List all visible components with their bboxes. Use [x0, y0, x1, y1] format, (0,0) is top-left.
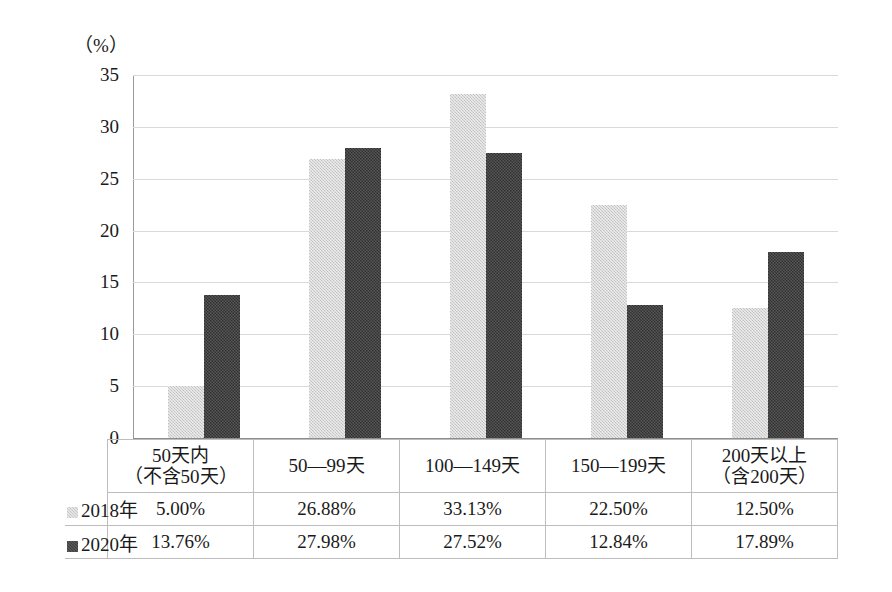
table-row: 2018年 5.00%26.88%33.13%22.50%12.50%	[65, 493, 838, 526]
bar-2020年-200天以上（含200天）	[768, 252, 804, 438]
y-tick-label: 35	[100, 64, 119, 86]
category-label-line: （不含50天）	[110, 466, 251, 487]
y-tick-label: 20	[100, 220, 119, 242]
y-tick-label: 25	[100, 168, 119, 190]
bar-2018年-100—149天	[450, 94, 486, 438]
y-tick-label: 15	[100, 271, 119, 293]
table-row: 2020年 13.76%27.98%27.52%12.84%17.89%	[65, 526, 838, 559]
y-tick-label: 30	[100, 116, 119, 138]
category-header-cell: 50—99天	[254, 440, 400, 493]
value-cell: 12.84%	[546, 526, 692, 559]
category-header-cell: 100—149天	[400, 440, 546, 493]
bar-group	[274, 75, 415, 438]
category-label-line: （含200天）	[694, 466, 835, 487]
legend-label-2018: 2018年	[81, 500, 138, 521]
value-cell: 17.89%	[692, 526, 838, 559]
bar-2018年-150—199天	[591, 205, 627, 438]
value-cell: 33.13%	[400, 493, 546, 526]
legend-label-2020: 2020年	[81, 534, 138, 555]
category-header-cell: 200天以上（含200天）	[692, 440, 838, 493]
bar-group	[415, 75, 556, 438]
bar-2020年-50—99天	[345, 148, 381, 438]
value-cell: 26.88%	[254, 493, 400, 526]
legend-cell-2020: 2020年	[65, 526, 108, 559]
bar-group	[556, 75, 697, 438]
data-table: 50天内（不含50天）50—99天100—149天150—199天200天以上（…	[65, 439, 838, 559]
bar-2018年-200天以上（含200天）	[732, 308, 768, 438]
category-label-line: 50—99天	[256, 455, 397, 476]
bar-2020年-50天内（不含50天）	[204, 295, 240, 438]
bars-layer	[133, 75, 838, 438]
value-cell: 27.98%	[254, 526, 400, 559]
legend-swatch-icon-2020	[67, 541, 78, 552]
table-row-categories: 50天内（不含50天）50—99天100—149天150—199天200天以上（…	[65, 440, 838, 493]
category-header-cell: 50天内（不含50天）	[108, 440, 254, 493]
y-axis-unit-label: （%）	[74, 30, 128, 57]
y-tick-label: 10	[100, 323, 119, 345]
bar-2018年-50—99天	[309, 159, 345, 438]
category-label-line: 150—199天	[548, 455, 689, 476]
bar-2018年-50天内（不含50天）	[168, 386, 204, 438]
category-label-line: 50天内	[110, 445, 251, 466]
legend-cell-2018: 2018年	[65, 493, 108, 526]
table-corner-cell	[65, 440, 108, 493]
bar-group	[133, 75, 274, 438]
category-header-cell: 150—199天	[546, 440, 692, 493]
bar-2020年-100—149天	[486, 153, 522, 438]
value-cell: 22.50%	[546, 493, 692, 526]
category-label-line: 100—149天	[402, 455, 543, 476]
value-cell: 27.52%	[400, 526, 546, 559]
data-table-body: 50天内（不含50天）50—99天100—149天150—199天200天以上（…	[65, 440, 838, 559]
legend-swatch-icon-2018	[67, 507, 78, 518]
bar-2020年-150—199天	[627, 305, 663, 438]
bar-chart-figure: （%） 35302520151050 50天内（不含50天）50—99天100—…	[0, 0, 892, 592]
category-label-line: 200天以上	[694, 445, 835, 466]
plot-area: 35302520151050	[133, 75, 838, 438]
value-cell: 12.50%	[692, 493, 838, 526]
y-tick-label: 5	[110, 375, 120, 397]
bar-group	[697, 75, 838, 438]
